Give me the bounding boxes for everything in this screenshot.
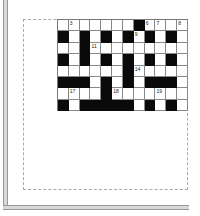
clue-number: 17 [70, 88, 76, 94]
crossword-cell[interactable] [177, 66, 188, 77]
crossword-block [145, 100, 156, 111]
crossword-cell[interactable] [177, 88, 188, 99]
crossword-cell[interactable] [101, 20, 112, 31]
crossword-block [58, 100, 69, 111]
crossword-cell[interactable] [101, 43, 112, 54]
crossword-cell[interactable] [134, 88, 145, 99]
crossword-block [80, 43, 91, 54]
crossword-block [145, 77, 156, 88]
crossword-cell[interactable] [101, 66, 112, 77]
crossword-cell[interactable] [90, 66, 101, 77]
clue-number: 7 [156, 20, 159, 26]
crossword-block [101, 100, 112, 111]
crossword-cell[interactable] [69, 66, 80, 77]
crossword-cell[interactable] [177, 100, 188, 111]
crossword-block [101, 54, 112, 65]
crossword-cell[interactable] [69, 43, 80, 54]
crossword-cell[interactable] [69, 54, 80, 65]
crossword-cell[interactable] [166, 66, 177, 77]
crossword-cell[interactable] [145, 88, 156, 99]
crossword-cell[interactable] [123, 88, 134, 99]
clue-number: 18 [113, 88, 119, 94]
crossword-cell[interactable] [134, 77, 145, 88]
crossword-cell[interactable] [112, 20, 123, 31]
crossword-cell[interactable]: 14 [134, 66, 145, 77]
crossword-block [101, 31, 112, 42]
crossword-block [112, 100, 123, 111]
crossword-cell[interactable] [90, 77, 101, 88]
crossword-block [166, 100, 177, 111]
clue-number: 3 [70, 20, 73, 26]
crossword-cell[interactable] [112, 31, 123, 42]
crossword-cell[interactable] [80, 20, 91, 31]
crossword-block [58, 31, 69, 42]
crossword-cell[interactable] [123, 43, 134, 54]
crossword-cell[interactable]: 9 [134, 31, 145, 42]
clue-number: 9 [135, 31, 138, 37]
crossword-cell[interactable] [155, 54, 166, 65]
crossword-cell[interactable] [69, 31, 80, 42]
crossword-cell[interactable] [58, 66, 69, 77]
crossword-cell[interactable] [155, 43, 166, 54]
crossword-block [80, 31, 91, 42]
crossword-cell[interactable] [155, 31, 166, 42]
crossword-cell[interactable] [177, 31, 188, 42]
clue-number: 19 [156, 88, 162, 94]
crossword-block [123, 54, 134, 65]
crossword-cell[interactable] [58, 20, 69, 31]
crossword-cell[interactable] [69, 100, 80, 111]
window-frame-bottom [3, 205, 189, 210]
crossword-cell[interactable]: 8 [177, 20, 188, 31]
crossword-cell[interactable] [90, 88, 101, 99]
crossword-block [80, 77, 91, 88]
crossword-cell[interactable]: 17 [69, 88, 80, 99]
crossword-cell[interactable] [58, 88, 69, 99]
crossword-cell[interactable]: 7 [155, 20, 166, 31]
crossword-cell[interactable] [90, 20, 101, 31]
crossword-cell[interactable] [177, 43, 188, 54]
crossword-cell[interactable]: 11 [90, 43, 101, 54]
crossword-cell[interactable] [123, 20, 134, 31]
crossword-block [123, 100, 134, 111]
crossword-cell[interactable] [177, 77, 188, 88]
crossword-cell[interactable] [134, 100, 145, 111]
crossword-block [101, 88, 112, 99]
crossword-cell[interactable] [58, 43, 69, 54]
window-frame-left [3, 0, 8, 209]
crossword-cell[interactable] [155, 100, 166, 111]
clue-number: 6 [146, 20, 149, 26]
crossword-block [58, 77, 69, 88]
crossword-cell[interactable] [177, 54, 188, 65]
crossword-cell[interactable] [134, 54, 145, 65]
crossword-block [90, 100, 101, 111]
crossword-cell[interactable]: 6 [145, 20, 156, 31]
crossword-block [145, 31, 156, 42]
crossword-cell[interactable] [80, 88, 91, 99]
crossword-cell[interactable]: 18 [112, 88, 123, 99]
crossword-cell[interactable] [134, 43, 145, 54]
crossword-block [123, 77, 134, 88]
crossword-cell[interactable] [90, 31, 101, 42]
crossword-cell[interactable]: 3 [69, 20, 80, 31]
crossword-block [145, 54, 156, 65]
crossword-block [101, 77, 112, 88]
crossword-cell[interactable] [112, 66, 123, 77]
clue-number: 8 [178, 20, 181, 26]
crossword-cell[interactable] [112, 43, 123, 54]
crossword-block [69, 77, 80, 88]
crossword-cell[interactable]: 19 [155, 88, 166, 99]
crossword-cell[interactable] [166, 88, 177, 99]
crossword-cell[interactable] [166, 20, 177, 31]
crossword-cell[interactable] [166, 43, 177, 54]
crossword-cell[interactable] [145, 66, 156, 77]
clue-number: 11 [91, 43, 96, 49]
crossword-cell[interactable] [112, 77, 123, 88]
crossword-block [166, 31, 177, 42]
crossword-cell[interactable] [145, 43, 156, 54]
crossword-cell[interactable] [155, 66, 166, 77]
crossword-cell[interactable] [90, 54, 101, 65]
crossword-block [80, 54, 91, 65]
crossword-block [123, 66, 134, 77]
crossword-cell[interactable] [112, 54, 123, 65]
crossword-cell[interactable] [80, 66, 91, 77]
